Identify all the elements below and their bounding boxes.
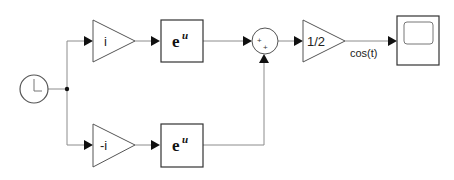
- math-top-base: e: [172, 32, 180, 51]
- arrow-into-math-top: [151, 36, 160, 46]
- sum-sign-1: +: [257, 36, 262, 45]
- math-bottom-exponent: u: [182, 133, 188, 145]
- arrow-into-gain-bottom: [84, 140, 93, 150]
- math-box-top: [161, 20, 203, 62]
- clock-block[interactable]: [20, 75, 48, 103]
- scope-block[interactable]: [397, 16, 439, 65]
- gain-block-half[interactable]: 1/2: [303, 20, 345, 62]
- gain-block-top[interactable]: i: [93, 20, 135, 62]
- arrow-into-sum-left: [243, 36, 252, 46]
- gain-bottom-label: -i: [100, 138, 107, 153]
- math-function-block-top[interactable]: e u: [161, 20, 203, 62]
- arrow-into-scope: [388, 36, 397, 46]
- math-function-block-bottom[interactable]: e u: [161, 124, 203, 167]
- branch-junction-dot: [65, 87, 69, 91]
- gain-block-bottom[interactable]: -i: [93, 124, 135, 167]
- sum-block[interactable]: + +: [252, 28, 278, 54]
- math-bottom-base: e: [172, 136, 180, 155]
- math-top-exponent: u: [182, 29, 188, 41]
- signal-label-cos: cos(t): [350, 47, 378, 59]
- arrow-into-gain-half: [294, 36, 303, 46]
- block-diagram-canvas: i -i e u e u + + 1/2 cos(t): [0, 0, 454, 180]
- wire-math-bottom-to-sum[interactable]: [203, 62, 264, 145]
- gain-triangle-top: [93, 20, 135, 62]
- gain-top-label: i: [104, 34, 107, 49]
- arrow-into-gain-top: [84, 36, 93, 46]
- math-box-bottom: [161, 124, 203, 167]
- gain-half-label: 1/2: [307, 34, 325, 49]
- arrow-into-sum-bottom: [259, 54, 269, 63]
- arrow-into-math-bottom: [151, 140, 160, 150]
- sum-sign-2: +: [263, 43, 268, 52]
- scope-icon: [404, 22, 433, 44]
